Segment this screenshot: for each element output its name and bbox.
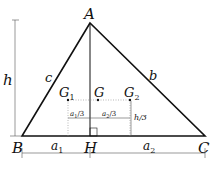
- triangle-diagram: A B C H h c b G1 G G2 a1/3 a2/3 h/3 a1 a…: [0, 0, 214, 176]
- label-g: G: [94, 85, 104, 100]
- label-h: H: [83, 139, 98, 157]
- label-a2-third: a2/3: [102, 110, 116, 119]
- label-h-height: h: [3, 71, 13, 89]
- label-a: A: [82, 5, 95, 23]
- label-a2: a2: [143, 139, 155, 155]
- label-side-b: b: [149, 68, 157, 83]
- label-g1: G1: [59, 85, 74, 102]
- label-c: C: [198, 139, 210, 157]
- label-a1: a1: [51, 139, 63, 155]
- label-h-third: h/3: [134, 113, 147, 122]
- label-b: B: [11, 139, 23, 157]
- label-a1-third: a1/3: [70, 110, 84, 119]
- right-angle-mark: [90, 128, 97, 136]
- label-g2: G2: [124, 85, 139, 102]
- label-side-c: c: [45, 70, 53, 85]
